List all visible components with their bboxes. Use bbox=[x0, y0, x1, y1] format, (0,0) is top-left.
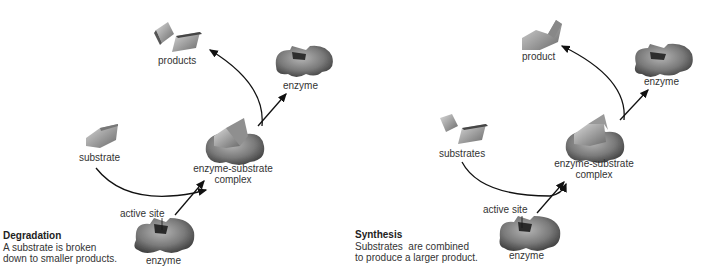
degradation-description-line1: A substrate is broken bbox=[3, 242, 117, 253]
substrate-shape-icon bbox=[86, 124, 118, 148]
synthesis-panel bbox=[440, 20, 693, 251]
label-active-site: active site bbox=[120, 208, 164, 219]
label-complex-2-line1: enzyme-substrate bbox=[553, 158, 635, 169]
label-active-site-2: active site bbox=[483, 204, 527, 215]
arrow-substrate-to-complex bbox=[96, 168, 206, 196]
synthesis-description-line1: Substrates are combined bbox=[355, 241, 478, 252]
arrow-enzyme-to-complex-2 bbox=[537, 182, 564, 213]
products-shape-icon bbox=[154, 22, 202, 52]
label-products: products bbox=[158, 55, 196, 66]
label-substrates: substrates bbox=[439, 148, 485, 159]
synthesis-title: Synthesis bbox=[355, 229, 402, 240]
label-enzyme-released: enzyme bbox=[283, 80, 318, 91]
enzyme-released-icon bbox=[276, 46, 333, 77]
label-enzyme: enzyme bbox=[146, 255, 181, 266]
degradation-description: A substrate is broken down to smaller pr… bbox=[3, 242, 117, 264]
label-complex-2: enzyme-substrate complex bbox=[553, 158, 635, 180]
enzyme-substrate-complex-icon bbox=[206, 118, 264, 165]
arrow-complex-to-products bbox=[210, 50, 262, 126]
degradation-title: Degradation bbox=[3, 230, 61, 241]
degradation-description-line2: down to smaller products. bbox=[3, 253, 117, 264]
arrow-enzyme-to-complex bbox=[175, 181, 204, 215]
enzyme-released-icon-2 bbox=[635, 44, 693, 77]
label-enzyme-released-2: enzyme bbox=[644, 76, 679, 87]
synthesis-description-line2: to produce a larger product. bbox=[355, 252, 478, 263]
substrates-shape-icon bbox=[440, 114, 488, 144]
arrow-complex-to-enzyme-2 bbox=[620, 90, 648, 120]
label-substrate: substrate bbox=[79, 152, 120, 163]
label-complex-line1: enzyme-substrate bbox=[192, 163, 274, 174]
label-complex: enzyme-substrate complex bbox=[192, 163, 274, 185]
arrow-substrates-to-complex bbox=[462, 162, 566, 196]
label-complex-line2: complex bbox=[192, 174, 274, 185]
label-product: product bbox=[522, 51, 555, 62]
arrow-complex-to-enzyme bbox=[258, 94, 286, 126]
synthesis-description: Substrates are combined to produce a lar… bbox=[355, 241, 478, 263]
enzyme-substrate-complex-icon-2 bbox=[566, 114, 624, 163]
arrow-complex-to-product bbox=[562, 46, 624, 120]
product-shape-icon bbox=[522, 20, 562, 50]
label-enzyme-2: enzyme bbox=[509, 250, 544, 261]
label-complex-2-line2: complex bbox=[553, 169, 635, 180]
enzyme-shape-icon bbox=[134, 218, 194, 253]
enzyme-shape-icon-2 bbox=[500, 216, 561, 251]
